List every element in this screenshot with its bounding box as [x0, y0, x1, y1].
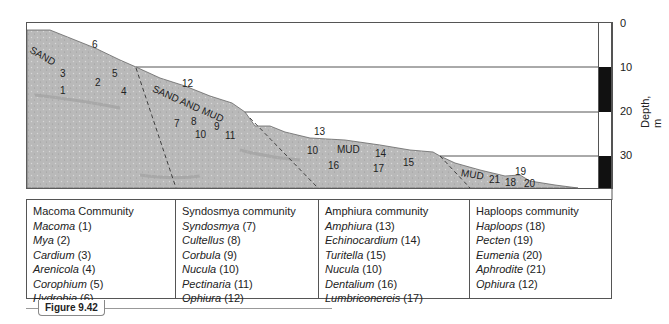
species-item: Eumenia (20)	[476, 248, 605, 263]
marker-4: 4	[121, 87, 127, 97]
species-item: Echinocardium (14)	[325, 233, 463, 248]
marker-12: 12	[182, 79, 193, 89]
marker-11: 11	[225, 131, 235, 141]
species-item: Aphrodite (21)	[476, 262, 605, 277]
figure-label: Figure 9.42	[38, 300, 105, 316]
species-item: Arenicola (4)	[33, 262, 169, 277]
marker-2: 2	[95, 78, 101, 88]
species-item: Haploops (18)	[476, 219, 605, 234]
depth-tick-10: 10	[620, 61, 632, 73]
column-header: Amphiura community	[325, 204, 463, 219]
species-item: Nucula (10)	[325, 262, 463, 277]
species-item: Nucula (10)	[182, 262, 312, 277]
depth-tick-20: 20	[620, 105, 632, 117]
community-table: Macoma Community Macoma (1) Mya (2) Card…	[26, 199, 612, 299]
figure-rule-right	[96, 308, 332, 309]
species-item: Macoma (1)	[33, 219, 169, 234]
column-syndosmya: Syndosmya community Syndosmya (7) Cultel…	[176, 200, 319, 298]
marker-10-mud: 10	[307, 146, 318, 156]
marker-19: 19	[515, 167, 526, 177]
species-item: Pecten (19)	[476, 233, 605, 248]
species-item: Ophiura (12)	[182, 291, 312, 306]
column-header: Haploops community	[476, 204, 605, 219]
marker-20: 20	[524, 179, 535, 189]
species-item: Corophium (5)	[33, 277, 169, 292]
marker-8: 8	[191, 117, 197, 127]
species-item: Pectinaria (11)	[182, 277, 312, 292]
species-item: Mya (2)	[33, 233, 169, 248]
marker-5: 5	[112, 69, 118, 79]
column-header: Macoma Community	[33, 204, 169, 219]
marker-6: 6	[92, 40, 98, 50]
marker-7: 7	[174, 119, 180, 129]
column-amphiura: Amphiura community Amphiura (13) Echinoc…	[319, 200, 470, 298]
species-item: Dentalium (16)	[325, 277, 463, 292]
depth-axis-title: Depth, m	[639, 96, 663, 128]
marker-14: 14	[375, 149, 386, 159]
zone-label-mud: MUD	[337, 145, 360, 155]
marker-1: 1	[60, 86, 66, 96]
marker-16: 16	[328, 161, 339, 171]
depth-tick-0: 0	[620, 17, 626, 29]
marker-21: 21	[489, 175, 500, 185]
species-item: Corbula (9)	[182, 248, 312, 263]
marker-15: 15	[403, 158, 414, 168]
marker-17: 17	[373, 164, 384, 174]
species-item: Amphiura (13)	[325, 219, 463, 234]
species-item: Lumbriconereis (17)	[325, 291, 463, 306]
depth-tick-30: 30	[620, 149, 632, 161]
marker-9: 9	[214, 122, 220, 132]
marker-18: 18	[505, 178, 516, 188]
species-item: Syndosmya (7)	[182, 219, 312, 234]
marker-10: 10	[195, 130, 206, 140]
species-item: Cultellus (8)	[182, 233, 312, 248]
species-item: Ophiura (12)	[476, 277, 605, 292]
column-header: Syndosmya community	[182, 204, 312, 219]
species-item: Cardium (3)	[33, 248, 169, 263]
marker-13: 13	[314, 127, 325, 137]
column-haploops: Haploops community Haploops (18) Pecten …	[470, 200, 611, 298]
marker-3: 3	[60, 69, 66, 79]
species-item: Turitella (15)	[325, 248, 463, 263]
column-macoma: Macoma Community Macoma (1) Mya (2) Card…	[27, 200, 176, 298]
seabed-profile-diagram: SAND SAND AND MUD MUD MUD 6 3 5 2 1 4 12…	[0, 0, 669, 200]
